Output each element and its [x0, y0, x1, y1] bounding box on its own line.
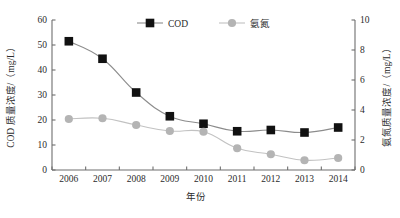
- line-chart: 0102030405060 0246810 200620072008200920…: [0, 0, 400, 218]
- data-point-cod: [300, 128, 309, 137]
- left-axis-tick-label: 10: [38, 140, 48, 150]
- x-axis-tick-label: 2014: [329, 174, 348, 184]
- data-point-cod: [98, 54, 107, 63]
- data-point-nh3: [199, 128, 207, 136]
- left-axis-title: COD 质量浓度/（mg/L）: [5, 42, 16, 148]
- right-axis-tick-label: 0: [360, 165, 365, 175]
- x-axis-tick-label: 2007: [93, 174, 112, 184]
- data-point-cod: [65, 37, 74, 46]
- left-axis-tick-label: 50: [38, 40, 48, 50]
- chart-container: 0102030405060 0246810 200620072008200920…: [0, 0, 400, 218]
- data-point-cod: [132, 88, 141, 97]
- x-axis-tick-label: 2009: [160, 174, 179, 184]
- data-point-nh3: [300, 156, 308, 164]
- left-axis-tick-label: 40: [38, 65, 48, 75]
- left-axis-tick-label: 30: [38, 90, 48, 100]
- right-axis-tick-label: 10: [360, 15, 370, 25]
- data-point-nh3: [233, 144, 241, 152]
- right-axis-tick-label: 8: [360, 45, 365, 55]
- x-axis-tick-label: 2012: [261, 174, 280, 184]
- data-point-nh3: [98, 114, 106, 122]
- right-axis-tick-label: 6: [360, 75, 365, 85]
- x-axis-tick-label: 2010: [194, 174, 213, 184]
- left-axis-tick-label: 60: [38, 15, 48, 25]
- x-axis-title: 年份: [186, 191, 206, 202]
- data-point-nh3: [334, 154, 342, 162]
- left-axis-tick-label: 0: [42, 165, 47, 175]
- data-point-nh3: [267, 150, 275, 158]
- right-axis-title: 氨氮质量浓度/（mg/L）: [381, 43, 392, 146]
- data-point-cod: [267, 126, 276, 135]
- data-point-nh3: [132, 121, 140, 129]
- x-axis-tick-label: 2011: [228, 174, 247, 184]
- data-point-cod: [166, 112, 175, 121]
- legend-label: 氨氮: [250, 18, 270, 29]
- legend-label: COD: [168, 19, 188, 29]
- right-axis-tick-label: 4: [360, 105, 365, 115]
- x-axis-tick-label: 2008: [127, 174, 146, 184]
- data-point-cod: [199, 119, 208, 128]
- data-point-nh3: [166, 127, 174, 135]
- left-axis-tick-label: 20: [38, 115, 48, 125]
- legend-marker-circle: [228, 19, 236, 27]
- right-axis-tick-label: 2: [360, 135, 365, 145]
- chart-background: [0, 0, 400, 218]
- data-point-cod: [334, 123, 343, 132]
- legend-marker-square: [146, 19, 155, 28]
- data-point-cod: [233, 127, 242, 136]
- x-axis-tick-label: 2006: [59, 174, 78, 184]
- x-axis-tick-label: 2013: [295, 174, 314, 184]
- data-point-nh3: [65, 115, 73, 123]
